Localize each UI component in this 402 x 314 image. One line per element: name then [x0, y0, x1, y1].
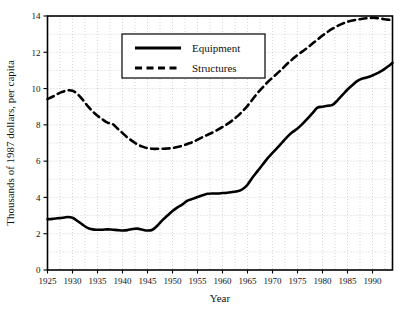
x-tick-label: 1940 [114, 276, 133, 286]
x-tick-label: 1990 [364, 276, 383, 286]
y-tick-labels: 02468101214 [32, 11, 42, 275]
x-tick-label: 1960 [214, 276, 233, 286]
x-tick-label: 1935 [89, 276, 108, 286]
chart-legend: EquipmentStructures [122, 34, 265, 78]
line-chart: 1925193019351940194519501955196019651970… [0, 0, 402, 314]
x-tick-labels: 1925193019351940194519501955196019651970… [39, 276, 383, 286]
legend-label-equipment: Equipment [192, 42, 240, 54]
x-tick-label: 1950 [164, 276, 183, 286]
legend-label-structures: Structures [192, 62, 237, 74]
x-tick-label: 1930 [64, 276, 83, 286]
y-tick-label: 2 [36, 229, 41, 239]
x-tick-label: 1925 [39, 276, 58, 286]
chart-figure: 1925193019351940194519501955196019651970… [0, 0, 402, 314]
x-tick-label: 1970 [264, 276, 283, 286]
y-tick-label: 6 [36, 156, 41, 166]
x-tick-label: 1980 [314, 276, 333, 286]
x-tick-label: 1945 [139, 276, 158, 286]
x-tick-label: 1965 [239, 276, 258, 286]
x-axis-title: Year [210, 292, 231, 304]
x-tick-label: 1955 [189, 276, 208, 286]
y-tick-label: 8 [36, 120, 41, 130]
x-tick-label: 1975 [289, 276, 308, 286]
y-tick-label: 0 [36, 265, 41, 275]
y-tick-label: 4 [36, 193, 41, 203]
series-equipment [48, 63, 393, 231]
y-axis-title: Thousands of 1987 dollars, per capita [4, 60, 16, 226]
y-tick-label: 10 [32, 84, 42, 94]
y-tick-label: 12 [32, 48, 41, 58]
x-tick-label: 1985 [339, 276, 358, 286]
y-tick-label: 14 [32, 11, 42, 21]
